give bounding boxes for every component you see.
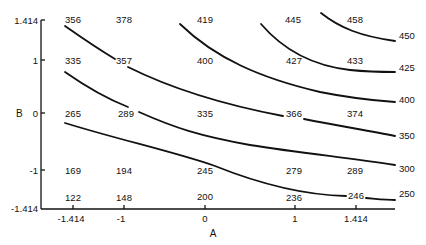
point-value: 194 <box>116 165 132 176</box>
contour-label: 425 <box>399 62 415 73</box>
contour-350 <box>304 119 395 136</box>
point-value: 169 <box>65 165 81 176</box>
contour-250 <box>366 198 395 200</box>
x-tick-label: 1.414 <box>344 213 368 224</box>
contour-label: 400 <box>399 94 415 105</box>
point-value: 335 <box>197 108 213 119</box>
point-value: 200 <box>197 191 213 202</box>
y-tick-label: 1.414 <box>14 15 38 26</box>
point-value: 433 <box>347 55 363 66</box>
point-values: 356 378 419 445 458 335 357 400 427 433 … <box>65 14 364 203</box>
y-tick-label: 0 <box>33 108 38 119</box>
contour-level-labels: 450 425 400 350 300 250 <box>399 30 415 199</box>
point-value: 289 <box>347 165 363 176</box>
contour-label: 250 <box>399 188 415 199</box>
point-value: 357 <box>116 55 132 66</box>
point-value: 419 <box>197 14 213 25</box>
point-value: 265 <box>65 108 81 119</box>
point-value: 236 <box>286 192 302 203</box>
point-value: 148 <box>116 192 132 203</box>
y-tick-label: 1 <box>33 55 38 66</box>
point-value: 366 <box>286 108 302 119</box>
contour-lines <box>65 13 395 200</box>
contour-300 <box>65 72 128 107</box>
contour-chart: 1.414 1 0 -1 -1.414 B -1.414 -1 0 1 1.41… <box>0 0 426 245</box>
x-tick-label: -1.414 <box>58 213 85 224</box>
point-value: 400 <box>197 55 213 66</box>
point-value: 445 <box>285 14 301 25</box>
contour-300 <box>139 112 395 165</box>
point-value: 374 <box>347 108 363 119</box>
x-tick-label: 1 <box>292 213 297 224</box>
contour-label: 350 <box>399 130 415 141</box>
point-value: 122 <box>65 192 81 203</box>
point-value: 335 <box>65 55 81 66</box>
point-value: 289 <box>118 108 134 119</box>
point-value: 378 <box>116 14 132 25</box>
point-value: 356 <box>65 14 81 25</box>
point-value: 246 <box>348 190 364 201</box>
x-axis-title: A <box>210 228 217 239</box>
y-axis-title: B <box>16 108 23 119</box>
contour-label: 300 <box>399 163 415 174</box>
contour-label: 450 <box>399 30 415 41</box>
point-value: 279 <box>286 165 302 176</box>
x-ticks: -1.414 -1 0 1 1.414 <box>58 205 368 224</box>
contour-425 <box>261 24 395 72</box>
point-value: 245 <box>197 165 213 176</box>
contour-250 <box>65 123 346 196</box>
x-tick-label: -1 <box>117 213 125 224</box>
y-tick-label: -1 <box>30 165 38 176</box>
x-tick-label: 0 <box>202 213 207 224</box>
point-value: 427 <box>286 55 302 66</box>
point-value: 458 <box>347 14 363 25</box>
y-tick-label: -1.414 <box>11 203 38 214</box>
